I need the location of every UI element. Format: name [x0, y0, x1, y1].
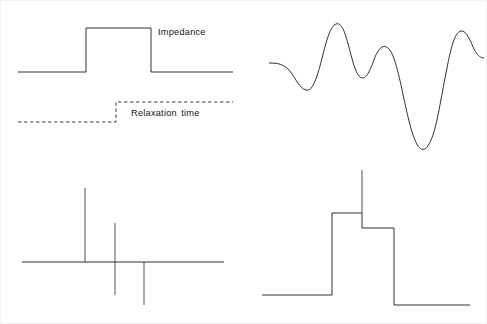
relaxation-time-label: Relaxation time — [131, 108, 200, 119]
impedance-label: Impedance — [158, 27, 206, 38]
signal-wavelet-panel: Signal — [244, 0, 487, 162]
impulse-response-panel: Impulse responsefunction — [0, 162, 244, 324]
fuzzy-impedance-panel: Fuzzy impedanceprofile — [244, 162, 487, 324]
impulse-response-plot — [0, 162, 244, 324]
relaxation-time-dashed-step — [18, 102, 233, 122]
impedance-step-plot — [0, 0, 244, 162]
signal-wavelet-curve — [269, 24, 484, 150]
signal-wavelet-plot — [244, 0, 487, 162]
fuzzy-impedance-plot — [244, 162, 487, 324]
impedance-step-panel: Impedance Relaxation time — [0, 0, 244, 162]
figure-root: Impedance Relaxation time Signal Impulse… — [0, 0, 487, 324]
fuzzy-impedance-staircase — [262, 213, 470, 305]
